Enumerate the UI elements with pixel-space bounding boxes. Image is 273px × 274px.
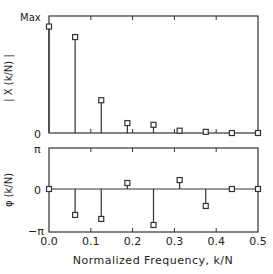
phase-stems <box>47 178 261 228</box>
bot-yzero-label: 0 <box>34 184 41 197</box>
x-tick-label: 0.5 <box>249 235 267 248</box>
top-ymin-label: 0 <box>34 128 41 141</box>
x-tick-label: 0.1 <box>82 235 100 248</box>
top-ymax-label: Max <box>20 12 41 23</box>
x-tick-label: 0.0 <box>40 235 58 248</box>
top-ylabel: | X (k/N) | <box>3 54 15 102</box>
x-tick-label: 0.3 <box>166 235 184 248</box>
bot-ymax-label: π <box>34 143 41 156</box>
x-tick-label: 0.2 <box>124 235 142 248</box>
magnitude-plot-frame <box>49 16 258 133</box>
x-tick-label: 0.4 <box>207 235 225 248</box>
x-tick-labels: 0.00.10.20.30.40.5 <box>40 235 267 248</box>
x-axis-label: Normalized Frequency, k/N <box>73 254 234 267</box>
spectrum-chart: Max 0 | X (k/N) | π 0 −π φ (k/N) 0.00.10… <box>0 0 273 274</box>
magnitude-stems <box>47 24 261 135</box>
bot-ylabel: φ (k/N) <box>3 173 14 207</box>
